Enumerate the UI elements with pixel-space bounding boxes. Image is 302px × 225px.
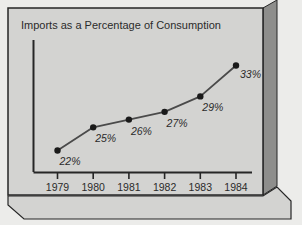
data-point-label: 22%	[59, 155, 81, 167]
chart-title: Imports as a Percentage of Consumption	[21, 19, 221, 31]
x-axis-label: 1983	[189, 181, 213, 193]
data-point-marker	[197, 93, 203, 99]
chart-svg: Imports as a Percentage of Consumption 1…	[0, 0, 302, 225]
x-axis-label: 1982	[153, 181, 177, 193]
data-point-marker	[126, 116, 132, 122]
data-point-marker	[54, 147, 60, 153]
chart-panel	[8, 8, 263, 195]
data-point-label: 27%	[166, 117, 188, 129]
data-point-label: 33%	[240, 68, 261, 80]
frame-right-face	[263, 0, 277, 195]
data-point-label: 29%	[201, 101, 223, 113]
data-point-marker	[233, 62, 239, 68]
x-axis-label: 1980	[82, 181, 106, 193]
data-point-label: 26%	[130, 125, 152, 137]
x-axis-label: 1981	[117, 181, 141, 193]
chart-figure: Imports as a Percentage of Consumption 1…	[0, 0, 302, 225]
data-point-label: 25%	[94, 132, 116, 144]
data-point-marker	[90, 124, 96, 130]
x-axis-label: 1984	[224, 181, 248, 193]
x-axis-label: 1979	[46, 181, 70, 193]
data-point-marker	[161, 109, 167, 115]
